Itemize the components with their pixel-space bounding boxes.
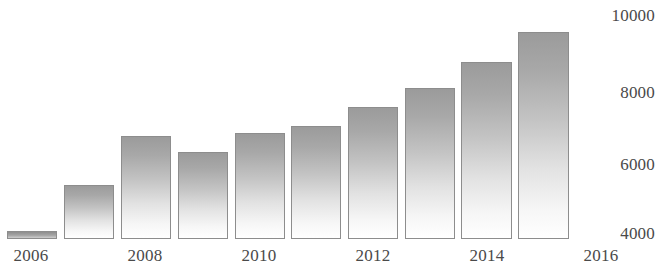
bar-2006	[7, 231, 57, 239]
y-tick-label-8000: 8000	[620, 83, 655, 103]
bar-2013	[405, 88, 455, 239]
y-tick-label-6000: 6000	[620, 155, 655, 175]
x-tick-label-2010: 2010	[242, 246, 277, 266]
x-tick-label-2008: 2008	[128, 246, 163, 266]
x-tick-label-2012: 2012	[356, 246, 391, 266]
x-tick-label-2014: 2014	[470, 246, 505, 266]
bar-2015	[518, 32, 569, 239]
y-tick-label-10000: 10000	[612, 6, 656, 26]
x-tick-label-2016: 2016	[584, 246, 619, 266]
bar-2009	[178, 152, 228, 239]
bar-2010	[235, 133, 285, 239]
x-tick-label-2006: 2006	[14, 246, 49, 266]
bar-2011	[291, 126, 341, 239]
bar-2008	[121, 136, 171, 239]
bar-2014	[461, 62, 512, 239]
bar-2007	[64, 185, 114, 239]
y-tick-label-4000: 4000	[620, 224, 655, 244]
bar-chart: 10000800060004000 2006200820102012201420…	[0, 0, 657, 273]
bar-2012	[348, 107, 398, 239]
